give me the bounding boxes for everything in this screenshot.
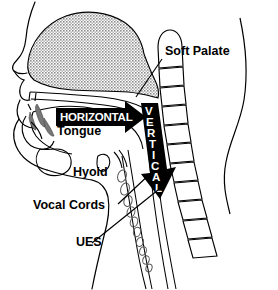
horizontal-arrow-label: HORIZONTAL <box>60 111 133 123</box>
cervical-vertebral-column <box>158 30 217 258</box>
label-ues: UES <box>76 235 102 249</box>
diagram-canvas: HORIZONTAL V E R T I C A L Soft Palate T… <box>0 0 278 290</box>
sagittal-anatomy-figure: HORIZONTAL V E R T I C A L Soft Palate T… <box>0 0 278 290</box>
label-hyoid: Hyoid <box>73 165 108 179</box>
label-soft-palate: Soft Palate <box>165 44 230 58</box>
label-tongue: Tongue <box>57 124 101 138</box>
trachea-cartilage-rings <box>116 169 153 273</box>
label-vocal-cords: Vocal Cords <box>33 198 105 212</box>
nasal-cavity-region <box>28 12 159 98</box>
